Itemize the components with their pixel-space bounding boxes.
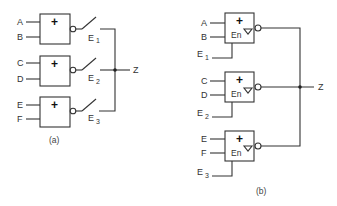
or-symbol: + (51, 98, 58, 112)
input-label-b: B (201, 32, 207, 42)
input-label-a: A (17, 17, 23, 27)
nor-gate-with-switch-2: C D + E 2 (17, 56, 130, 86)
switch-subscript: 1 (96, 37, 100, 44)
output-wire (261, 87, 300, 146)
or-symbol: + (51, 57, 58, 71)
inversion-bubble-icon (255, 84, 261, 90)
enable-text: En (231, 30, 242, 40)
tristate-nor-gate-2: C D + En E 2 (197, 72, 314, 120)
enable-subscript: 3 (205, 172, 209, 179)
input-label-f: F (201, 148, 207, 158)
caption-a: (a) (49, 135, 60, 145)
enable-wire (212, 102, 232, 117)
junction-dot (298, 85, 302, 89)
switch-icon (82, 99, 96, 111)
input-label-c: C (17, 58, 24, 68)
switch-icon (82, 17, 96, 29)
input-label-e: E (17, 100, 23, 110)
or-symbol: + (236, 73, 243, 87)
diagram-a: A B + E 1 C D + E 2 (17, 14, 139, 145)
enable-label-e3: E (197, 167, 203, 177)
switch-icon (82, 58, 96, 70)
inversion-bubble-icon (70, 108, 76, 114)
enable-subscript: 1 (205, 54, 209, 61)
input-label-b: B (17, 32, 23, 42)
enable-text: En (231, 89, 242, 99)
switch-label-e2: E (88, 73, 94, 83)
bus-wire (99, 70, 115, 111)
enable-subscript: 2 (205, 113, 209, 120)
enable-wire (212, 161, 232, 176)
diagram-b: A B + En E 1 C D + En E (197, 13, 324, 196)
enable-wire (212, 43, 232, 58)
enable-label-e2: E (197, 108, 203, 118)
enable-label-e1: E (197, 49, 203, 59)
or-symbol: + (51, 15, 58, 29)
inversion-bubble-icon (70, 67, 76, 73)
output-wire (261, 28, 300, 87)
input-label-a: A (201, 18, 207, 28)
input-label-c: C (201, 76, 208, 86)
input-label-d: D (201, 90, 208, 100)
output-label-z: Z (133, 65, 139, 75)
switch-label-e3: E (88, 113, 94, 123)
diagram-canvas: A B + E 1 C D + E 2 (0, 0, 337, 206)
output-label-z: Z (318, 82, 324, 92)
bus-wire (100, 29, 115, 70)
switch-subscript: 2 (96, 78, 100, 85)
caption-b: (b) (256, 186, 267, 196)
inversion-bubble-icon (70, 26, 76, 32)
or-symbol: + (236, 14, 243, 28)
enable-text: En (231, 148, 242, 158)
input-label-f: F (17, 114, 23, 124)
inversion-bubble-icon (255, 25, 261, 31)
switch-label-e1: E (88, 33, 94, 43)
input-label-e: E (201, 134, 207, 144)
input-label-d: D (17, 74, 24, 84)
or-symbol: + (236, 132, 243, 146)
switch-subscript: 3 (96, 118, 100, 125)
inversion-bubble-icon (255, 143, 261, 149)
junction-dot (113, 68, 117, 72)
